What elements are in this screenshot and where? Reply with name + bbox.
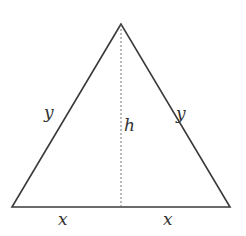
height-label: h [124, 115, 135, 135]
right-side-label: y [175, 103, 186, 123]
triangle-diagram: y y h x x [0, 0, 246, 236]
left-side-label: y [43, 102, 54, 122]
base-left-label: x [58, 209, 68, 229]
base-right-label: x [163, 209, 173, 229]
